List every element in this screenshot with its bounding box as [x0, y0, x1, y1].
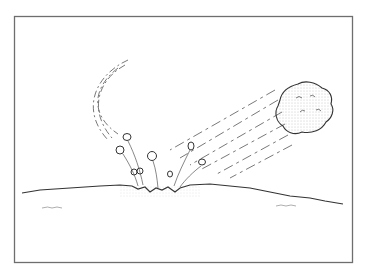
meteorite-impact-illustration	[0, 0, 366, 278]
debris-rock	[188, 142, 194, 150]
debris-rock	[123, 134, 131, 141]
debris-rock	[199, 159, 206, 165]
ground-stipple	[120, 185, 200, 198]
picture-frame	[15, 17, 353, 263]
debris-rock	[148, 152, 157, 161]
debris-rock	[116, 146, 124, 154]
debris-rock	[168, 171, 173, 177]
